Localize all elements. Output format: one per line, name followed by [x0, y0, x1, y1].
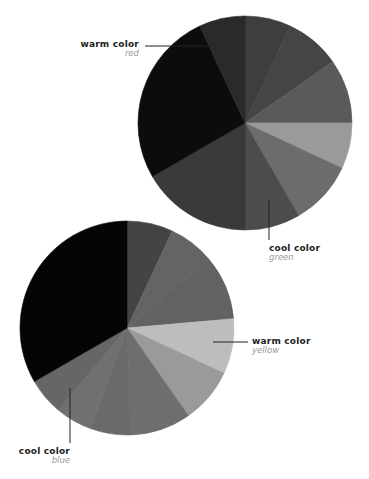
label-cool-blue: cool color blue — [19, 446, 70, 466]
label-warm-red: warm color red — [80, 39, 139, 59]
color-wheel-diagram — [0, 0, 369, 479]
label-cool-green: cool color green — [269, 243, 320, 263]
label-warm-yellow: warm color yellow — [252, 336, 311, 356]
top-pie-chart — [138, 16, 352, 230]
label-color: green — [269, 253, 320, 263]
label-color: red — [80, 49, 139, 59]
label-color: blue — [19, 456, 70, 466]
label-color: yellow — [252, 346, 311, 356]
bottom-pie-chart — [20, 221, 234, 435]
